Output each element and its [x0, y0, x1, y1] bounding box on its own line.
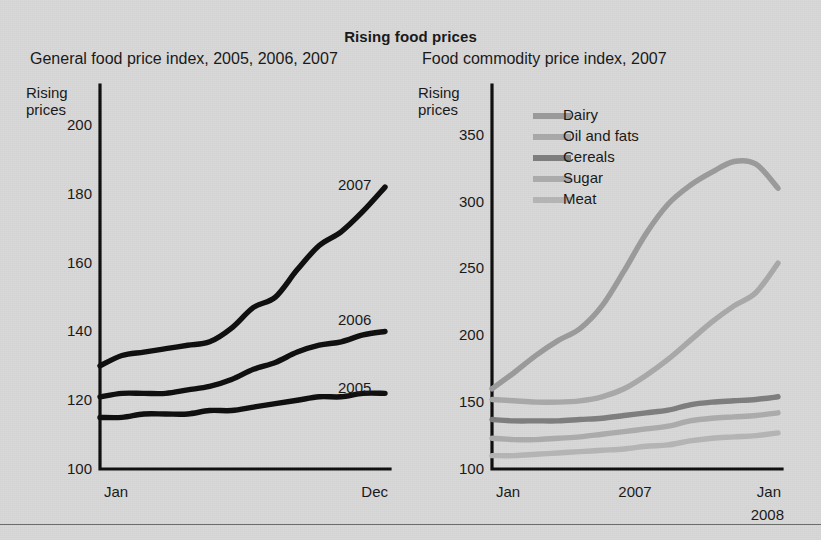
series-line-oil-and-fats: [492, 263, 778, 402]
right-chart-x-tick-labels: Jan2007Jan2008: [496, 483, 784, 523]
x-tick-label-jan-2008-line1: Jan: [757, 483, 781, 500]
y-tick-label: 200: [459, 326, 484, 343]
legend-label-sugar: Sugar: [563, 169, 603, 186]
legend-label-cereals: Cereals: [563, 148, 615, 165]
legend-label-oil-and-fats: Oil and fats: [563, 127, 639, 144]
series-line-dairy: [492, 161, 778, 389]
y-tick-label: 350: [459, 126, 484, 143]
y-tick-label: 250: [459, 259, 484, 276]
right-chart-y-tick-labels: 100150200250300350: [459, 126, 484, 477]
right-chart-plot: 100150200250300350 Jan2007Jan2008 DairyO…: [0, 0, 821, 540]
y-tick-label: 300: [459, 193, 484, 210]
legend-label-dairy: Dairy: [563, 106, 599, 123]
x-tick-label-jan: Jan: [496, 483, 520, 500]
y-tick-label: 100: [459, 460, 484, 477]
right-chart-series-group: [492, 161, 778, 456]
legend-label-meat: Meat: [563, 190, 597, 207]
right-chart-legend: DairyOil and fatsCerealsSugarMeat: [533, 106, 639, 207]
x-tick-label-2007: 2007: [618, 483, 651, 500]
y-tick-label: 150: [459, 393, 484, 410]
figure-rising-food-prices: Rising food prices General food price in…: [0, 0, 821, 540]
footer-divider: [0, 524, 821, 525]
x-tick-label-jan-2008-line2: 2008: [751, 506, 784, 523]
series-line-meat: [492, 433, 778, 456]
